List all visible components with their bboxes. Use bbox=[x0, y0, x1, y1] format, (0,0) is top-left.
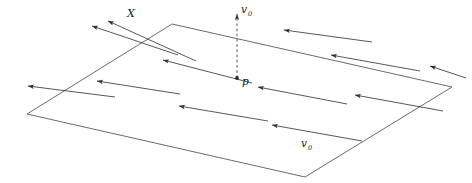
v0-bottom-subscript: 0 bbox=[308, 144, 312, 152]
vector-field-diagram: X v 0 p v 0 bbox=[0, 0, 472, 183]
x-vector-label: X bbox=[126, 7, 136, 20]
v0-top-subscript: 0 bbox=[248, 10, 252, 18]
v0-top-label: v bbox=[241, 3, 247, 15]
v0-bottom-label: v bbox=[301, 137, 307, 149]
point-p-label: p bbox=[242, 75, 249, 87]
point-p-marker bbox=[235, 76, 239, 80]
